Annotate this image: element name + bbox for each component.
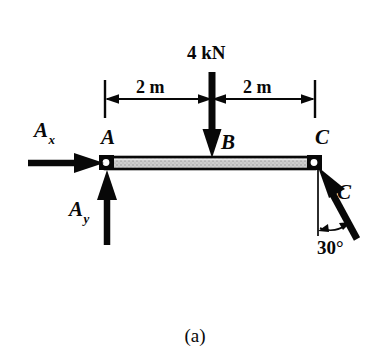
figure-free-body-diagram: Ax Ay A B C C 4 kN 2 m 2 m 30° (a) — [0, 0, 390, 363]
label-applied-load: 4 kN — [187, 43, 226, 62]
pin-support-c — [307, 155, 322, 170]
label-reaction-ay: Ay — [69, 199, 89, 223]
label-reaction-ay-base: A — [69, 197, 83, 221]
label-dimension-right: 2 m — [243, 78, 272, 96]
label-reaction-ax-subscript: x — [49, 132, 56, 147]
reaction-ay-arrow — [97, 170, 117, 245]
figure-caption: (a) — [0, 326, 390, 345]
label-angle: 30° — [317, 238, 344, 257]
label-point-a: A — [101, 127, 115, 148]
pin-c-circle — [310, 158, 318, 166]
label-point-c: C — [315, 127, 329, 148]
beam-member — [105, 157, 315, 169]
pin-a-circle — [102, 158, 110, 166]
label-reaction-ay-subscript: y — [84, 211, 90, 226]
label-point-b: B — [221, 132, 235, 153]
label-reaction-ax-base: A — [34, 118, 48, 142]
label-force-c: C — [337, 182, 351, 203]
reaction-ax-arrow — [28, 153, 104, 173]
label-reaction-ax: Ax — [34, 120, 55, 144]
dimension-left-arrowhead-start — [105, 94, 119, 104]
beam-body — [105, 157, 315, 169]
label-dimension-left: 2 m — [136, 78, 165, 96]
load-arrow-head — [203, 129, 222, 158]
dimension-right-arrowhead-end — [301, 94, 315, 104]
angle-arc-arrowhead-left — [318, 224, 329, 232]
applied-load-arrow — [203, 72, 222, 158]
ay-arrow-head — [97, 170, 117, 200]
